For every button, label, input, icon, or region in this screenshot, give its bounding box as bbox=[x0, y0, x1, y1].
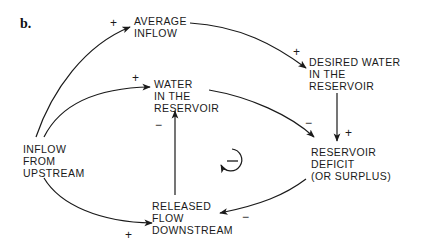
polarity-sign: + bbox=[293, 46, 300, 58]
node-water-in-reservoir: WATER IN THE RESERVOIR bbox=[154, 78, 219, 114]
polarity-sign: − bbox=[155, 119, 162, 131]
node-line: DESIRED WATER bbox=[309, 56, 401, 68]
causal-loop-diagram: b. AVERAGE INFLOW DESIRED WATER IN THE R… bbox=[0, 0, 424, 246]
link-upstream-to-water bbox=[44, 87, 150, 137]
panel-label: b. bbox=[20, 16, 31, 32]
node-line: (OR SURPLUS) bbox=[311, 170, 391, 182]
link-upstream-to-released bbox=[44, 178, 152, 223]
polarity-sign: + bbox=[345, 127, 352, 139]
node-line: IN THE bbox=[309, 68, 401, 80]
node-reservoir-deficit: RESERVOIR DEFICIT (OR SURPLUS) bbox=[311, 146, 391, 182]
node-line: RESERVOIR bbox=[311, 146, 391, 158]
link-average-inflow-to-desired-water bbox=[190, 23, 306, 68]
balancing-loop-icon bbox=[221, 149, 242, 171]
node-line: RESERVOIR bbox=[309, 80, 401, 92]
node-line: UPSTREAM bbox=[23, 167, 85, 179]
node-line: DEFICIT bbox=[311, 158, 391, 170]
link-upstream-to-average-inflow bbox=[36, 27, 130, 137]
link-water-to-deficit bbox=[209, 90, 314, 137]
node-line: INFLOW bbox=[23, 143, 85, 155]
node-line: DOWNSTREAM bbox=[152, 224, 233, 236]
node-line: AVERAGE bbox=[134, 15, 187, 27]
node-desired-water: DESIRED WATER IN THE RESERVOIR bbox=[309, 56, 401, 92]
polarity-sign: + bbox=[125, 229, 132, 241]
node-average-inflow: AVERAGE INFLOW bbox=[134, 15, 187, 39]
node-line: FLOW bbox=[152, 212, 233, 224]
node-line: INFLOW bbox=[134, 27, 187, 39]
node-line: FROM bbox=[23, 155, 85, 167]
polarity-sign: + bbox=[132, 72, 139, 84]
node-inflow-from-upstream: INFLOW FROM UPSTREAM bbox=[23, 143, 85, 179]
node-line: RESERVOIR bbox=[154, 102, 219, 114]
node-released-flow: RELEASED FLOW DOWNSTREAM bbox=[152, 200, 233, 236]
node-line: WATER bbox=[154, 78, 219, 90]
polarity-sign: − bbox=[242, 211, 249, 223]
polarity-sign: − bbox=[305, 117, 312, 129]
node-line: RELEASED bbox=[152, 200, 233, 212]
node-line: IN THE bbox=[154, 90, 219, 102]
polarity-sign: + bbox=[110, 17, 117, 29]
